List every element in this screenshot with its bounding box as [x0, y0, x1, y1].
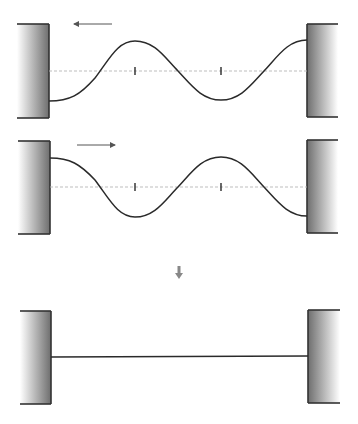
right-wall	[307, 24, 338, 117]
panel-wave-right-travel	[18, 140, 338, 234]
panel-superposition-flat	[20, 310, 340, 404]
right-wall	[307, 140, 338, 233]
panel-wave-left-travel	[17, 24, 338, 118]
wave-curve	[50, 157, 307, 217]
standing-wave-diagram	[0, 0, 358, 424]
left-wall	[20, 311, 51, 404]
right-wall	[308, 310, 340, 403]
down-arrow-icon	[175, 266, 183, 279]
left-wall	[18, 141, 50, 234]
flat-string	[51, 356, 308, 357]
left-wall	[17, 24, 49, 118]
wave-curve	[49, 40, 307, 101]
